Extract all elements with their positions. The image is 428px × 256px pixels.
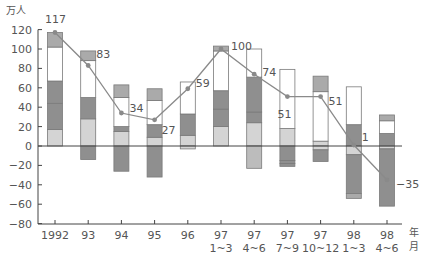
bar-segment-light	[214, 127, 229, 146]
line-point-marker	[285, 94, 290, 99]
bar-segment-dark	[280, 163, 295, 166]
data-label: 51	[277, 108, 291, 121]
bar-segment-dark	[313, 150, 328, 162]
line-point-marker	[185, 86, 190, 91]
data-label: −35	[396, 178, 419, 191]
y-axis-unit-label: 万人	[6, 5, 26, 16]
data-label: 59	[196, 77, 210, 90]
bar-segment-light	[247, 123, 262, 146]
data-label: 34	[129, 102, 143, 115]
bar-segment-light	[313, 141, 328, 146]
bar-segment-mid	[81, 51, 96, 61]
bar-segment-light	[280, 129, 295, 146]
stacked-bar	[180, 82, 195, 149]
bar-segment-dark	[114, 146, 129, 171]
line-point-marker	[351, 143, 356, 148]
x-tick-label-year: 95	[148, 229, 162, 242]
line-point-marker	[53, 30, 58, 35]
x-tick-label-months: 4~6	[375, 242, 398, 255]
bar-segment-light	[180, 135, 195, 146]
y-tick-label: −60	[9, 198, 32, 211]
data-label: 83	[96, 48, 110, 61]
stacked-bar	[346, 87, 361, 199]
bar-segment-dark	[247, 77, 262, 112]
bar-segment-light	[114, 131, 129, 146]
x-tick-label-year: 97	[280, 229, 294, 242]
data-label: 74	[262, 66, 276, 79]
y-axis: 120100806040200−20−40−60−80	[9, 24, 42, 231]
y-tick-label: −20	[9, 159, 32, 172]
stacked-bar	[214, 46, 229, 146]
line-point-marker	[385, 178, 390, 183]
bar-segment-light	[313, 146, 328, 150]
x-tick-label-year: 97	[314, 229, 328, 242]
stacked-bar	[114, 85, 129, 171]
x-tick-label-months: 10~12	[302, 242, 339, 255]
data-label: 1	[362, 131, 369, 144]
data-label: 100	[231, 40, 252, 53]
bar-segment-mid	[346, 194, 361, 199]
x-tick-label-year: 96	[181, 229, 195, 242]
bar-segment-white	[380, 121, 395, 134]
x-axis: 199293949596971~3974~6977~99710~12981~39…	[38, 220, 402, 255]
x-tick-label-year: 93	[81, 229, 95, 242]
x-tick-label-year: 98	[380, 229, 394, 242]
bar-segment-dark	[81, 146, 96, 160]
line-point-marker	[219, 47, 224, 52]
stacked-bar	[313, 76, 328, 161]
x-tick-label-year: 97	[214, 229, 228, 242]
x-tick-label-year: 97	[247, 229, 261, 242]
line-point-marker	[252, 72, 257, 77]
line-point-marker	[152, 117, 157, 122]
bar-segment-dark	[114, 127, 129, 132]
bar-segment-dark	[247, 112, 262, 123]
y-tick-label: 60	[18, 82, 32, 95]
bar-segment-dark	[346, 155, 361, 194]
total-line-series: 117833427591007451511−35	[45, 13, 419, 191]
bar-segment-white	[48, 47, 63, 81]
bar-segment-dark	[380, 149, 395, 206]
line-point-marker	[119, 111, 124, 116]
x-tick-label-months: 4~6	[243, 242, 266, 255]
bar-segment-white	[313, 92, 328, 141]
y-tick-label: −40	[9, 179, 32, 192]
bar-segment-dark	[214, 109, 229, 126]
y-tick-label: 40	[18, 101, 32, 114]
x-tick-label-months: 7~9	[276, 242, 299, 255]
stacked-bar	[147, 89, 162, 177]
bar-segment-dark	[380, 133, 395, 146]
bar-segment-white	[346, 87, 361, 125]
x-tick-label-year: 1992	[41, 229, 69, 242]
bar-segment-neglight	[247, 146, 262, 168]
bar-segment-mid	[380, 115, 395, 121]
data-label: 51	[329, 95, 343, 108]
bar-segment-dark	[48, 103, 63, 129]
bar-segment-mid	[147, 89, 162, 101]
bar-segment-mid	[313, 76, 328, 92]
y-tick-label: 120	[11, 24, 32, 37]
data-label: 27	[162, 124, 176, 137]
bar-segment-light	[147, 137, 162, 146]
stacked-bar	[48, 33, 63, 146]
bar-segment-dark	[147, 146, 162, 177]
x-tick-label-months: 1~3	[209, 242, 232, 255]
bar-segment-dark	[280, 146, 295, 161]
x-tick-label-months: 1~3	[342, 242, 365, 255]
stacked-bar	[380, 115, 395, 206]
stacked-bar	[247, 49, 262, 168]
data-label: 117	[45, 13, 66, 26]
stacked-bar-line-chart: 120100806040200−20−40−60−80 199293949596…	[0, 0, 428, 256]
bar-segment-dark	[147, 125, 162, 138]
bar-segment-dark	[280, 161, 295, 164]
y-tick-label: 100	[11, 43, 32, 56]
bar-segment-dark	[48, 81, 63, 103]
y-tick-label: 20	[18, 121, 32, 134]
bar-segment-dark	[214, 91, 229, 109]
y-tick-label: −80	[9, 218, 32, 231]
bar-segment-light	[48, 130, 63, 146]
bar-segment-dark	[180, 114, 195, 135]
y-tick-label: 80	[18, 62, 32, 75]
bar-segment-mid	[114, 85, 129, 98]
bar-segment-light	[81, 119, 96, 146]
line-point-marker	[318, 94, 323, 99]
